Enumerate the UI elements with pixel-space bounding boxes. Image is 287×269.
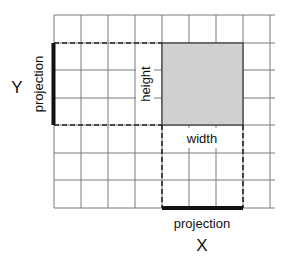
height-label: height <box>138 66 153 102</box>
x-projection-label: projection <box>174 216 230 231</box>
width-label: width <box>186 131 217 146</box>
y-axis-label: Y <box>11 78 22 97</box>
shaded-rectangle <box>162 43 243 125</box>
x-axis-label: X <box>196 236 207 255</box>
y-projection-label: projection <box>31 56 46 112</box>
projection-diagram: Y X projection projection height width <box>0 0 287 269</box>
